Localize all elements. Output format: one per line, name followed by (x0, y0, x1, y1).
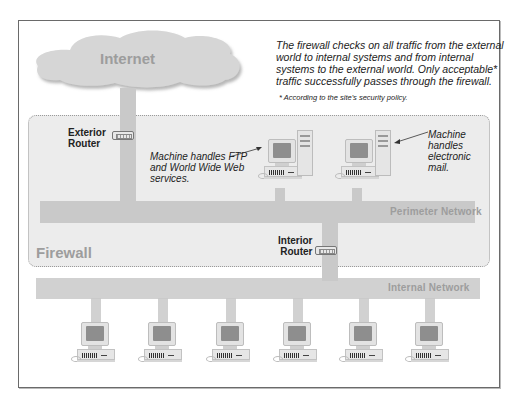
mail-server-tower-icon (375, 130, 391, 176)
internal-host-computer-icon (77, 322, 117, 366)
firewall-label: Firewall (36, 244, 92, 261)
exterior-router-label-line: Exterior (68, 127, 106, 138)
internet-label: Internet (100, 50, 155, 67)
mail-arrow-icon (393, 131, 429, 145)
interior-router-label-line: Interior (278, 235, 312, 246)
ftp-server-tower-icon (297, 130, 313, 176)
ftp-arrow-icon (228, 145, 264, 159)
internal-host-computer-icon (212, 322, 252, 366)
exterior-router-label-line: Router (68, 138, 106, 149)
internal-host-computer-icon (411, 322, 451, 366)
exterior-router-icon (112, 131, 134, 140)
description-line: world to internal systems and from inter… (276, 51, 506, 63)
internet-uplink (120, 88, 136, 203)
host-link (359, 298, 369, 322)
internal-host-computer-icon (144, 322, 184, 366)
ftp-note-line: services. (150, 173, 247, 184)
mail-note-line: handles (428, 140, 471, 151)
mail-note-line: Machine (428, 129, 471, 140)
host-link (425, 298, 435, 322)
description-line: systems to the external world. Only acce… (276, 63, 506, 75)
internal-host-computer-icon (345, 322, 385, 366)
description-line: traffic successfully passes through the … (276, 75, 506, 87)
mail-server-link (352, 188, 362, 202)
perimeter-network-label: Perimeter Network (390, 206, 482, 217)
mail-note-line: mail. (428, 162, 471, 173)
ftp-server-link (275, 188, 285, 202)
description-line: The firewall checks on all traffic from … (276, 39, 506, 51)
interior-router-icon (315, 246, 337, 255)
internal-host-computer-icon (279, 322, 319, 366)
host-link (91, 298, 101, 322)
footnote: * According to the site's security polic… (279, 92, 408, 103)
mail-note-line: electronic (428, 151, 471, 162)
host-link (158, 298, 168, 322)
host-link (293, 298, 303, 322)
interior-router-label: Interior Router (278, 235, 312, 257)
internal-network-label: Internal Network (388, 282, 470, 293)
ftp-note-line: and World Wide Web (150, 162, 247, 173)
mail-server-note: Machine handles electronic mail. (428, 129, 471, 173)
host-link (226, 298, 236, 322)
interior-router-label-line: Router (278, 246, 312, 257)
description-text: The firewall checks on all traffic from … (276, 39, 506, 87)
exterior-router-label: Exterior Router (68, 127, 106, 149)
